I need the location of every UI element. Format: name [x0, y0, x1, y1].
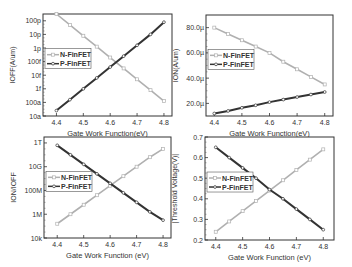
y-tick-label: 1T [34, 139, 43, 146]
data-point-marker [296, 68, 299, 71]
data-point-marker [228, 220, 231, 223]
x-tick-label: 4.7 [132, 241, 142, 248]
chart-ion-vs-work-function: 4.44.54.64.74.820.0µ40.0µ60.0µ80.0µGate … [172, 15, 333, 138]
chart-threshold-voltage-vs-work-function: 4.44.54.64.74.80.20.30.40.50.60.7Gate Wo… [171, 134, 334, 263]
data-point-marker [82, 34, 85, 37]
y-axis-label: ION(A/um) [172, 49, 180, 82]
legend-entry-p-finfet: P-FinFET [223, 61, 254, 68]
x-tick-label: 4.5 [78, 119, 88, 126]
data-point-marker [308, 158, 311, 161]
x-tick-label: 4.5 [238, 243, 248, 250]
data-point-marker [82, 203, 85, 206]
data-point-marker [281, 179, 284, 182]
x-tick-label: 4.4 [52, 119, 62, 126]
y-tick-label: 100f [27, 58, 41, 65]
x-tick-label: 4.4 [209, 119, 219, 126]
data-point-marker [322, 228, 325, 231]
x-tick-label: 4.8 [159, 119, 169, 126]
data-point-marker [122, 55, 125, 58]
data-point-marker [323, 91, 326, 94]
legend: N-FinFETP-FinFET [46, 171, 93, 191]
y-tick-label: 10G [29, 163, 42, 170]
data-point-marker [56, 144, 59, 147]
legend-entry-n-finfet: N-FinFET [222, 175, 254, 182]
data-point-marker [268, 101, 271, 104]
data-point-marker [268, 188, 271, 191]
legend-entry-p-finfet: P-FinFET [61, 183, 92, 190]
data-point-marker [228, 156, 231, 159]
data-point-marker [254, 45, 257, 48]
data-point-marker [96, 172, 99, 175]
data-point-marker [162, 100, 165, 103]
y-tick-label: 0.5 [193, 175, 203, 182]
data-point-marker [308, 218, 311, 221]
data-point-marker [148, 156, 151, 159]
legend: N-FinFETP-FinFET [207, 172, 254, 192]
x-tick-label: 4.7 [292, 243, 302, 250]
y-tick-label: 1M [32, 211, 42, 218]
y-tick-label: 100p [25, 17, 41, 25]
data-point-marker [241, 167, 244, 170]
y-axis-label: IOFF(A/um) [9, 47, 17, 84]
y-axis-label: ION/IOFF [10, 172, 17, 202]
data-point-marker [148, 210, 151, 213]
data-point-marker [149, 89, 152, 92]
chart-ion-ioff-ratio-vs-work-function: 4.44.54.64.74.810k1M100M10G1TGate Work F… [10, 137, 171, 260]
y-tick-label: 10p [29, 31, 41, 39]
x-tick-label: 4.5 [237, 119, 247, 126]
data-point-marker [268, 51, 271, 54]
data-point-marker [322, 148, 325, 151]
data-point-marker [55, 13, 58, 16]
legend: N-FinFETP-FinFET [208, 49, 255, 69]
data-point-marker [135, 165, 138, 168]
data-point-marker [309, 75, 312, 78]
data-point-marker [149, 33, 152, 36]
data-point-marker [240, 106, 243, 109]
y-tick-label: 10f [31, 72, 41, 79]
legend-entry-n-finfet: N-FinFET [223, 52, 255, 59]
data-point-marker [227, 32, 230, 35]
data-point-marker [69, 213, 72, 216]
y-axis-label: |Threshold Voltage(V)| [171, 154, 179, 224]
data-point-marker [227, 110, 230, 113]
data-point-marker [109, 66, 112, 69]
data-point-marker [240, 39, 243, 42]
data-point-marker [295, 208, 298, 211]
data-point-marker [55, 109, 58, 112]
data-point-marker [109, 182, 112, 185]
data-point-marker [122, 175, 125, 178]
x-tick-label: 4.7 [292, 119, 302, 126]
data-point-marker [163, 21, 166, 24]
data-point-marker [282, 197, 285, 200]
legend-entry-n-finfet: N-FinFET [61, 174, 93, 181]
y-tick-label: 0.2 [193, 237, 203, 244]
data-point-marker [296, 96, 299, 99]
y-tick-label: 10a [29, 113, 41, 120]
data-point-marker [310, 93, 313, 96]
data-point-marker [213, 26, 216, 29]
data-point-marker [255, 199, 258, 202]
data-point-marker [82, 87, 85, 90]
y-tick-label: 0.3 [193, 216, 203, 223]
data-point-marker [68, 98, 71, 101]
data-point-marker [135, 201, 138, 204]
x-tick-label: 4.6 [265, 243, 275, 250]
y-tick-label: 1p [33, 45, 41, 53]
data-point-marker [214, 146, 217, 149]
x-tick-label: 4.6 [105, 119, 115, 126]
chart-ioff-vs-work-function: 4.44.54.64.74.810a100a1f10f100f1p10p100p… [9, 13, 172, 139]
x-tick-label: 4.8 [318, 243, 328, 250]
x-tick-label: 4.8 [158, 241, 168, 248]
x-tick-label: 4.5 [79, 241, 89, 248]
data-point-marker [295, 168, 298, 171]
y-tick-label: 1f [35, 85, 41, 92]
legend-entry-p-finfet: P-FinFET [60, 60, 91, 67]
data-point-marker [95, 77, 98, 80]
data-point-marker [213, 112, 216, 115]
y-tick-label: 100M [24, 187, 42, 194]
data-point-marker [68, 23, 71, 26]
y-tick-label: 0.7 [193, 134, 203, 141]
data-point-marker [241, 210, 244, 213]
data-point-marker [69, 153, 72, 156]
x-axis-label: Gate Work Function (eV) [66, 251, 149, 260]
